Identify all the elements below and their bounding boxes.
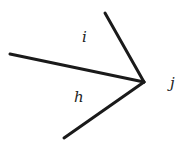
label-j: j [167,74,175,92]
diagram-canvas: ihj [0,0,182,147]
label-h: h [74,88,84,106]
edge-top [105,13,144,82]
edges-group [10,13,144,138]
edge-left [10,54,144,82]
label-i: i [82,28,87,46]
